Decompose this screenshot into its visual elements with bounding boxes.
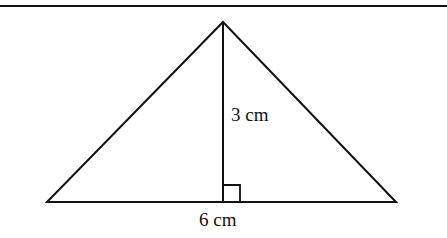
triangle-outline xyxy=(47,22,396,202)
triangle-diagram: 3 cm 6 cm xyxy=(0,0,447,238)
height-label: 3 cm xyxy=(231,105,268,124)
right-angle-marker xyxy=(223,185,240,202)
base-label: 6 cm xyxy=(199,210,236,229)
triangle-figure xyxy=(0,0,447,238)
